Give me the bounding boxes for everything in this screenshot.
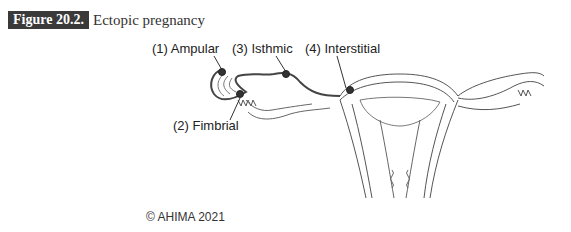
uterus-diagram — [0, 0, 571, 232]
site-marker-isthmic — [283, 71, 290, 78]
site-marker-interstitial — [347, 87, 354, 94]
site-marker-ampular — [219, 69, 226, 76]
copyright-notice: © AHIMA 2021 — [146, 210, 225, 224]
site-marker-fimbrial — [237, 91, 244, 98]
